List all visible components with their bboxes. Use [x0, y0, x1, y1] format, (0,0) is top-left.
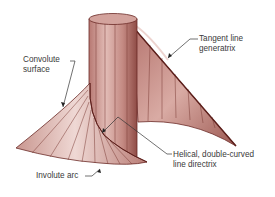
label-line: Helical, double-curved	[173, 150, 254, 160]
label-line: line directrix	[173, 160, 254, 170]
label-line: generatrix	[199, 44, 243, 54]
label-helical-directrix: Helical, double-curved line directrix	[173, 150, 254, 170]
label-line: Involute arc	[36, 171, 78, 181]
cylinder-top	[89, 14, 137, 25]
label-line: Tangent line	[199, 34, 243, 44]
label-line: surface	[23, 65, 60, 75]
label-tangent-line-generatrix: Tangent line generatrix	[199, 34, 243, 54]
label-convolute-surface: Convolute surface	[23, 55, 60, 75]
label-line: Convolute	[23, 55, 60, 65]
label-involute-arc: Involute arc	[36, 171, 78, 181]
